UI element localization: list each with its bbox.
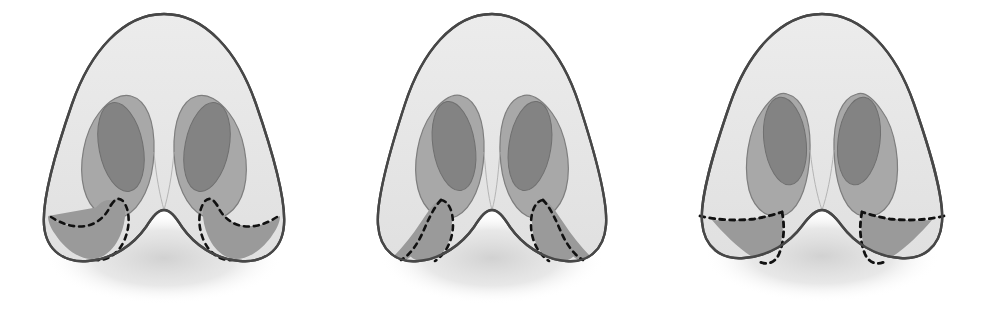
alar-base-excision-figure [0, 0, 985, 310]
panel-3-wedge-excision [656, 0, 984, 310]
nose-base-diagram-1 [0, 0, 328, 310]
nose-base-diagram-2 [328, 0, 656, 310]
panel-1-combined-excision [0, 0, 328, 310]
nose-base-diagram-3 [656, 0, 984, 310]
panel-2-sill-excision [328, 0, 656, 310]
